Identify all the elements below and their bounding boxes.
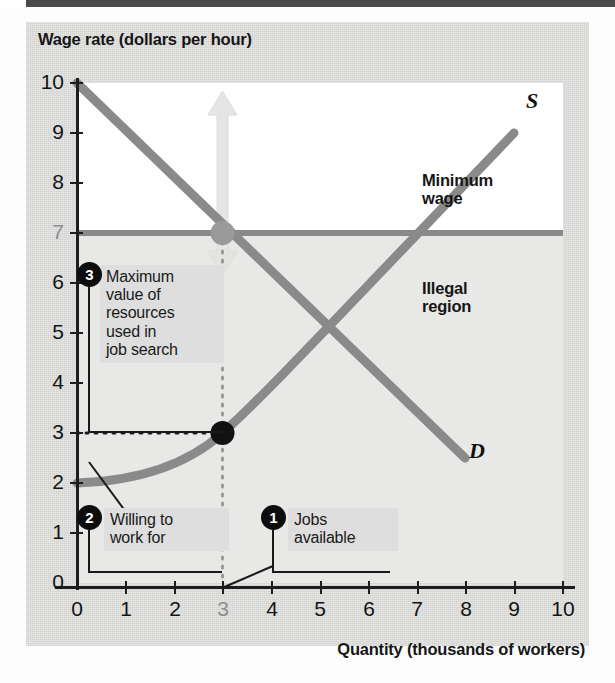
- annotation-2-badge: 2: [77, 505, 102, 530]
- annotation-3-line3: resources: [106, 304, 218, 322]
- annotation-3-line5: job search: [106, 341, 218, 359]
- annotation-1-badge: 1: [261, 505, 286, 530]
- annotation-1-line1: Jobs: [294, 511, 392, 529]
- annotation-3-line2: value of: [106, 286, 218, 304]
- annotation-3-badge: 3: [77, 262, 102, 287]
- annotation-2-line1: Willing to: [110, 511, 223, 529]
- annotation-3-line4: used in: [106, 323, 218, 341]
- annotation-1-pointer: [222, 566, 273, 588]
- annotation-2-text: Willing to work for: [104, 508, 229, 551]
- annotation-1-text: Jobs available: [288, 508, 398, 551]
- annotation-1-line2: available: [294, 529, 392, 547]
- annotation-3-line1: Maximum: [106, 268, 218, 286]
- annotation-leaders-layer: [0, 0, 615, 683]
- annotation-3-text: Maximum value of resources used in job s…: [100, 265, 224, 363]
- figure-root: Wage rate (dollars per hour) S D: [0, 0, 615, 683]
- annotation-2-line2: work for: [110, 529, 223, 547]
